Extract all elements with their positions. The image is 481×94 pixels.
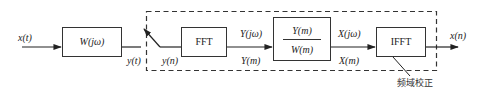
group-label-leader <box>393 57 410 76</box>
fft-block: FFT <box>181 27 227 57</box>
divide-numerator: Y(m) <box>274 26 330 36</box>
output-signal-label: x(n) <box>450 31 466 41</box>
frequency-correction-label: 频域校正 <box>397 79 433 88</box>
y-t-label: y(t) <box>127 56 141 66</box>
fft-block-label: FFT <box>182 37 226 47</box>
X-m-label: X(m) <box>339 56 359 66</box>
channel-block-label: W(jω) <box>63 37 121 47</box>
fraction-bar <box>283 39 321 40</box>
divide-block: Y(m) W(m) <box>273 17 331 61</box>
Y-m-label: Y(m) <box>241 56 260 66</box>
channel-block: W(jω) <box>62 27 122 57</box>
ifft-block: IFFT <box>376 27 426 57</box>
y-n-label: y(n) <box>162 56 178 66</box>
X-jw-label: X(jω) <box>338 29 361 39</box>
Y-jw-label: Y(jω) <box>240 29 262 39</box>
ifft-block-label: IFFT <box>377 37 425 47</box>
input-signal-label: x(t) <box>18 33 32 43</box>
divide-denominator: W(m) <box>274 45 330 55</box>
